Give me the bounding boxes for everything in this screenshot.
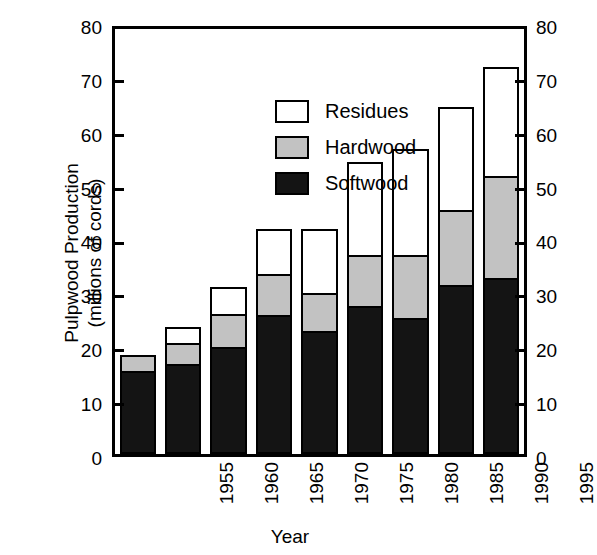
bar-segment-residues-1975 xyxy=(301,229,337,295)
y-tick-label-left-30: 30 xyxy=(56,287,102,306)
y-tick-label-right-70: 70 xyxy=(536,72,582,91)
y-tick-label-right-30: 30 xyxy=(536,287,582,306)
y-tick-label-left-70: 70 xyxy=(56,72,102,91)
y-tick-label-right-60: 60 xyxy=(536,126,582,145)
y-tick-label-right-40: 40 xyxy=(536,233,582,252)
bar-segment-hardwood-1970 xyxy=(256,274,292,317)
legend-label-hardwood: Hardwood xyxy=(325,137,416,157)
legend-label-softwood: Softwood xyxy=(325,173,408,193)
bar-segment-hardwood-1960 xyxy=(165,343,201,366)
bar-1990 xyxy=(438,29,474,454)
y-tick-label-left-20: 20 xyxy=(56,341,102,360)
bar-segment-hardwood-1965 xyxy=(210,314,246,349)
y-tick-mark-left-40 xyxy=(115,242,124,245)
bar-segment-softwood-1990 xyxy=(438,285,474,454)
bar-segment-residues-1965 xyxy=(210,287,246,316)
y-tick-label-right-20: 20 xyxy=(536,341,582,360)
y-tick-mark-left-30 xyxy=(115,295,124,298)
y-tick-label-left-40: 40 xyxy=(56,233,102,252)
bar-segment-hardwood-1985 xyxy=(392,255,428,320)
bar-segment-hardwood-1995 xyxy=(483,176,519,281)
bar-segment-softwood-1985 xyxy=(392,318,428,454)
y-tick-label-left-10: 10 xyxy=(56,395,102,414)
legend-swatch-hardwood-icon xyxy=(275,136,309,159)
bar-segment-softwood-1955 xyxy=(120,371,156,454)
y-tick-mark-left-60 xyxy=(115,134,124,137)
y-tick-mark-left-10 xyxy=(115,403,124,406)
y-tick-label-left-0: 0 xyxy=(56,449,102,468)
bar-segment-residues-1960 xyxy=(165,327,201,345)
bar-segment-softwood-1960 xyxy=(165,364,201,454)
y-tick-label-right-10: 10 xyxy=(536,395,582,414)
y-tick-label-right-50: 50 xyxy=(536,180,582,199)
bar-segment-softwood-1980 xyxy=(347,306,383,454)
legend-item-softwood: Softwood xyxy=(275,165,416,201)
y-tick-mark-right-10 xyxy=(515,403,524,406)
bar-segment-hardwood-1980 xyxy=(347,255,383,307)
y-tick-mark-right-20 xyxy=(515,349,524,352)
y-tick-label-left-60: 60 xyxy=(56,126,102,145)
bar-segment-softwood-1965 xyxy=(210,347,246,454)
y-tick-label-right-80: 80 xyxy=(536,18,582,37)
bar-1995 xyxy=(483,29,519,454)
x-axis-title: Year xyxy=(0,527,580,546)
y-tick-mark-right-60 xyxy=(515,134,524,137)
legend-item-residues: Residues xyxy=(275,93,416,129)
y-tick-mark-right-50 xyxy=(515,188,524,191)
y-tick-label-left-50: 50 xyxy=(56,180,102,199)
plot-area: Residues Hardwood Softwood xyxy=(112,26,527,457)
y-tick-mark-right-70 xyxy=(515,80,524,83)
legend-swatch-residues-icon xyxy=(275,100,309,123)
bar-1955 xyxy=(120,29,156,454)
bar-segment-hardwood-1975 xyxy=(301,293,337,333)
y-tick-mark-right-40 xyxy=(515,242,524,245)
bar-1965 xyxy=(210,29,246,454)
bar-segment-residues-1990 xyxy=(438,107,474,213)
bar-segment-softwood-1995 xyxy=(483,278,519,454)
y-tick-mark-right-30 xyxy=(515,295,524,298)
y-tick-label-left-80: 80 xyxy=(56,18,102,37)
y-tick-mark-left-50 xyxy=(115,188,124,191)
y-tick-mark-left-20 xyxy=(115,349,124,352)
y-tick-mark-left-70 xyxy=(115,80,124,83)
bar-1960 xyxy=(165,29,201,454)
bar-segment-residues-1970 xyxy=(256,229,292,276)
bar-segment-residues-1995 xyxy=(483,67,519,178)
legend-item-hardwood: Hardwood xyxy=(275,129,416,165)
legend-label-residues: Residues xyxy=(325,101,408,121)
bar-segment-hardwood-1990 xyxy=(438,210,474,286)
bar-segment-hardwood-1955 xyxy=(120,355,156,373)
legend-swatch-softwood-icon xyxy=(275,172,309,195)
chart-legend: Residues Hardwood Softwood xyxy=(275,93,416,201)
bar-segment-softwood-1975 xyxy=(301,331,337,454)
bar-segment-softwood-1970 xyxy=(256,315,292,454)
